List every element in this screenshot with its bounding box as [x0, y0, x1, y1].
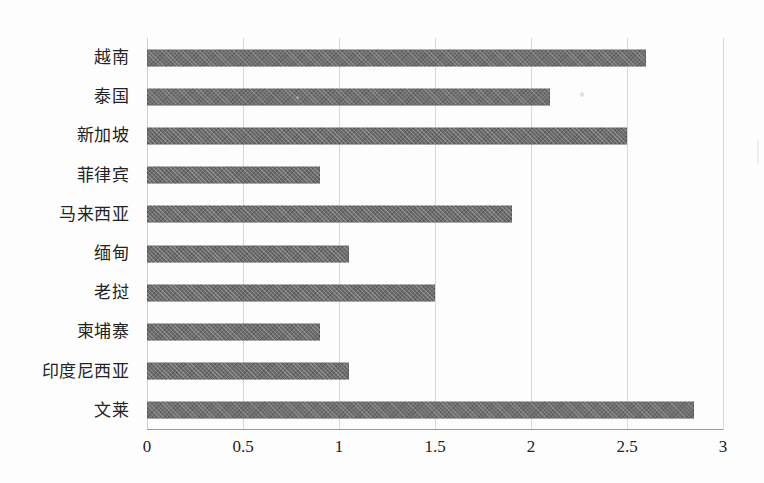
y-axis-category-labels: 越南泰国新加坡菲律宾马来西亚缅甸老挝柬埔寨印度尼西亚文莱	[0, 38, 139, 430]
x-tick-label-0.5: 0.5	[232, 437, 253, 457]
category-label-文莱: 文莱	[94, 391, 129, 430]
bar-文莱	[147, 402, 694, 419]
category-label-泰国: 泰国	[94, 77, 129, 116]
bar-row	[147, 273, 723, 312]
bar-row	[147, 352, 723, 391]
scan-speck	[580, 92, 584, 97]
bar-老挝	[147, 284, 435, 301]
bar-菲律宾	[147, 167, 320, 184]
x-tick-label-1: 1	[335, 437, 344, 457]
category-label-菲律宾: 菲律宾	[77, 156, 130, 195]
x-axis-line	[147, 429, 723, 430]
scan-speck	[296, 96, 299, 99]
bar-row	[147, 77, 723, 116]
bar-row	[147, 234, 723, 273]
category-label-越南: 越南	[94, 38, 129, 77]
x-tick-label-0: 0	[143, 437, 152, 457]
scan-speck	[757, 140, 759, 164]
bar-新加坡	[147, 127, 627, 144]
x-tick-label-3: 3	[719, 437, 728, 457]
category-label-印度尼西亚: 印度尼西亚	[42, 352, 130, 391]
x-tick-label-2: 2	[527, 437, 536, 457]
bar-row	[147, 156, 723, 195]
bar-row	[147, 38, 723, 77]
bar-row	[147, 116, 723, 155]
bar-泰国	[147, 88, 550, 105]
bar-柬埔寨	[147, 323, 320, 340]
bar-row	[147, 391, 723, 430]
chart-canvas: 越南泰国新加坡菲律宾马来西亚缅甸老挝柬埔寨印度尼西亚文莱 00.511.522.…	[0, 0, 764, 483]
category-label-新加坡: 新加坡	[77, 116, 130, 155]
x-tick-label-1.5: 1.5	[424, 437, 445, 457]
category-label-缅甸: 缅甸	[94, 234, 129, 273]
x-axis-tick-labels: 00.511.522.53	[0, 437, 764, 467]
plot-area	[147, 38, 723, 430]
bar-row	[147, 195, 723, 234]
category-label-柬埔寨: 柬埔寨	[77, 312, 130, 351]
gridline-3	[723, 38, 724, 430]
bar-row	[147, 312, 723, 351]
bar-印度尼西亚	[147, 363, 349, 380]
bar-缅甸	[147, 245, 349, 262]
x-tick-label-2.5: 2.5	[616, 437, 637, 457]
category-label-老挝: 老挝	[94, 273, 129, 312]
category-label-马来西亚: 马来西亚	[59, 195, 129, 234]
bar-马来西亚	[147, 206, 512, 223]
bar-越南	[147, 49, 646, 66]
